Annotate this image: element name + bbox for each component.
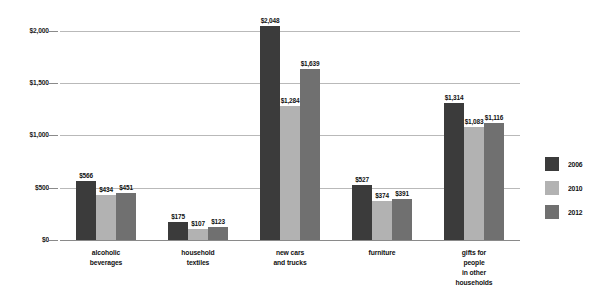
category-label-line: household bbox=[157, 248, 240, 258]
legend-item[interactable]: 2010 bbox=[545, 176, 584, 200]
bar-group: $566$434$451 bbox=[76, 10, 136, 240]
plot-area: $566$434$451$175$107$123$2,048$1,284$1,6… bbox=[60, 10, 520, 240]
category-label: new carsand trucks bbox=[249, 248, 332, 268]
bar: $107 bbox=[188, 229, 208, 240]
category-label-line: gifts for bbox=[433, 248, 516, 258]
bar: $123 bbox=[208, 227, 228, 240]
category-label-line: alcoholic bbox=[65, 248, 148, 258]
bar-value-label: $566 bbox=[79, 171, 93, 180]
bar-value-label: $107 bbox=[191, 219, 205, 228]
bar: $527 bbox=[352, 185, 372, 240]
legend-label: 2006 bbox=[568, 160, 582, 169]
category-label-line: people bbox=[433, 258, 516, 268]
legend-swatch bbox=[545, 157, 559, 171]
y-axis-tick bbox=[49, 31, 58, 32]
category-label-line: households bbox=[433, 278, 516, 288]
bar-chart: $2,000$1,500$1,000$500$0 $566$434$451$17… bbox=[0, 0, 612, 302]
bar: $1,083 bbox=[464, 127, 484, 240]
y-axis-tick-label: $500 bbox=[35, 183, 49, 192]
y-axis-tick-label: $0 bbox=[42, 235, 49, 244]
legend-item[interactable]: 2012 bbox=[545, 200, 584, 224]
y-axis-tick bbox=[49, 135, 58, 136]
bar: $451 bbox=[116, 193, 136, 240]
category-label-line: new cars bbox=[249, 248, 332, 258]
bar-value-label: $1,083 bbox=[465, 117, 484, 126]
category-label-line: furniture bbox=[341, 248, 424, 258]
category-label: furniture bbox=[341, 248, 424, 258]
category-label-line: and trucks bbox=[249, 258, 332, 268]
legend-swatch bbox=[545, 205, 559, 219]
bar-value-label: $2,048 bbox=[261, 16, 280, 25]
bar: $1,639 bbox=[300, 69, 320, 240]
bar-value-label: $1,639 bbox=[301, 59, 320, 68]
bar-group: $1,314$1,083$1,116 bbox=[444, 10, 504, 240]
bar: $175 bbox=[168, 222, 188, 240]
y-axis-tick-label: $1,500 bbox=[30, 78, 49, 87]
bar-group: $175$107$123 bbox=[168, 10, 228, 240]
bar-value-label: $527 bbox=[355, 175, 369, 184]
category-label-line: in other bbox=[433, 268, 516, 278]
legend-item[interactable]: 2006 bbox=[545, 152, 584, 176]
category-label: householdtextiles bbox=[157, 248, 240, 268]
bar-value-label: $374 bbox=[375, 191, 389, 200]
bar: $434 bbox=[96, 195, 116, 240]
bar-value-label: $451 bbox=[119, 183, 133, 192]
y-axis-tick bbox=[49, 188, 58, 189]
bar: $1,116 bbox=[484, 123, 504, 240]
bar: $374 bbox=[372, 201, 392, 240]
bar: $391 bbox=[392, 199, 412, 240]
bar-value-label: $123 bbox=[211, 217, 225, 226]
bar-value-label: $175 bbox=[171, 212, 185, 221]
legend-label: 2012 bbox=[568, 208, 582, 217]
y-axis: $2,000$1,500$1,000$500$0 bbox=[0, 10, 49, 240]
bar-group: $2,048$1,284$1,639 bbox=[260, 10, 320, 240]
y-axis-tick bbox=[49, 240, 58, 241]
bar: $1,314 bbox=[444, 103, 464, 240]
bar-value-label: $391 bbox=[395, 189, 409, 198]
bar-value-label: $1,284 bbox=[281, 96, 300, 105]
bar-value-label: $434 bbox=[99, 185, 113, 194]
category-label-line: textiles bbox=[157, 258, 240, 268]
y-axis-tick bbox=[49, 83, 58, 84]
legend-label: 2010 bbox=[568, 184, 582, 193]
bar: $566 bbox=[76, 181, 96, 240]
bar-group: $527$374$391 bbox=[352, 10, 412, 240]
y-axis-tick-label: $2,000 bbox=[30, 26, 49, 35]
category-label-line: beverages bbox=[65, 258, 148, 268]
bar-value-label: $1,116 bbox=[485, 113, 503, 122]
category-label: gifts forpeoplein otherhouseholds bbox=[433, 248, 516, 288]
axis-baseline bbox=[60, 240, 520, 241]
legend: 200620102012 bbox=[545, 152, 584, 224]
y-axis-tick-label: $1,000 bbox=[30, 130, 49, 139]
bar-value-label: $1,314 bbox=[445, 93, 464, 102]
legend-swatch bbox=[545, 181, 559, 195]
category-label: alcoholicbeverages bbox=[65, 248, 148, 268]
bar: $2,048 bbox=[260, 26, 280, 240]
bar: $1,284 bbox=[280, 106, 300, 240]
